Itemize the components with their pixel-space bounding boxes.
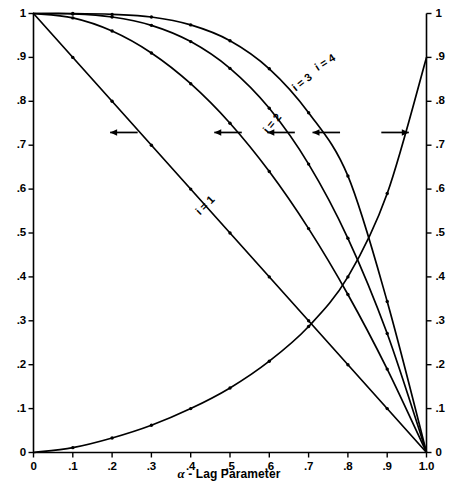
data-point-marker (386, 407, 389, 410)
x-axis-title-text: - Lag Parameter (185, 467, 281, 481)
data-point-marker (189, 407, 192, 410)
data-point-marker (71, 16, 74, 19)
data-point-marker (189, 187, 192, 190)
reference-arrow-left (110, 129, 138, 135)
y-axis-right-tick-label: .2 (436, 358, 445, 370)
arrow-head (110, 129, 117, 135)
y-axis-left-tick-label: 1 (2, 7, 26, 19)
data-point-marker (346, 363, 349, 366)
y-axis-right-tick-label: .4 (436, 270, 445, 282)
data-point-marker (268, 359, 271, 362)
data-point-marker (189, 23, 192, 26)
y-axis-right-tick-label: .3 (436, 314, 445, 326)
data-point-marker (307, 325, 310, 328)
y-axis-left-tick-label: .5 (2, 226, 26, 238)
data-point-marker (150, 424, 153, 427)
data-point-marker (110, 100, 113, 103)
data-point-marker (150, 24, 153, 27)
data-point-marker (71, 12, 74, 15)
curve-mean-lag (34, 57, 427, 452)
y-axis-left-tick-label: 0 (2, 446, 26, 458)
y-axis-right-tick-label: .7 (436, 138, 445, 150)
y-axis-left-tick-label: .2 (2, 358, 26, 370)
y-axis-left-tick-label: .1 (2, 402, 26, 414)
data-point-marker (150, 144, 153, 147)
data-point-marker (110, 13, 113, 16)
data-point-marker (386, 300, 389, 303)
y-axis-right-tick-label: 0 (436, 446, 442, 458)
y-axis-left-tick-label: .6 (2, 182, 26, 194)
arrow-head (214, 129, 221, 135)
data-point-marker (307, 111, 310, 114)
data-point-marker (346, 275, 349, 278)
y-axis-left-tick-label: .8 (2, 94, 26, 106)
data-point-marker (307, 227, 310, 230)
y-axis-left-tick-label: .3 (2, 314, 26, 326)
data-point-marker (346, 293, 349, 296)
y-axis-right-tick-label: 1 (436, 7, 442, 19)
data-point-marker (110, 29, 113, 32)
data-point-marker (386, 332, 389, 335)
data-point-marker (346, 237, 349, 240)
data-point-marker (268, 67, 271, 70)
y-axis-left-tick-label: .7 (2, 138, 26, 150)
data-point-marker (71, 446, 74, 449)
arrow-head (313, 129, 320, 135)
data-point-marker (228, 67, 231, 70)
chart-figure: 0.1.2.3.4.5.6.7.8.91 0.1.2.3.4.5.6.7.8.9… (0, 0, 458, 491)
y-axis-right-tick-label: .8 (436, 94, 445, 106)
data-point-marker (346, 174, 349, 177)
data-point-marker (268, 170, 271, 173)
data-point-marker (71, 56, 74, 59)
data-point-marker (150, 15, 153, 18)
data-point-marker (307, 162, 310, 165)
data-point-marker (386, 192, 389, 195)
data-point-marker (307, 319, 310, 322)
alpha-symbol: α (178, 466, 185, 481)
data-point-marker (386, 367, 389, 370)
chart-plot-area (0, 0, 458, 491)
data-point-marker (189, 82, 192, 85)
data-point-marker (228, 386, 231, 389)
reference-arrow-left (313, 129, 341, 135)
y-axis-right-tick-label: .9 (436, 50, 445, 62)
x-axis-title: α - Lag Parameter (0, 466, 458, 482)
reference-arrow-left (214, 129, 242, 135)
data-point-marker (268, 107, 271, 110)
axis-reference-arrows (110, 129, 409, 135)
data-point-marker (268, 275, 271, 278)
y-axis-left-tick-label: .9 (2, 50, 26, 62)
data-point-marker (150, 51, 153, 54)
data-point-marker (228, 231, 231, 234)
y-axis-left-tick-label: .4 (2, 270, 26, 282)
y-axis-right-tick-label: .1 (436, 402, 445, 414)
data-point-markers (71, 12, 389, 450)
data-point-marker (228, 39, 231, 42)
y-axis-right-tick-label: .6 (436, 182, 445, 194)
data-point-marker (228, 122, 231, 125)
data-point-marker (110, 436, 113, 439)
data-point-marker (189, 40, 192, 43)
y-axis-right-tick-label: .5 (436, 226, 445, 238)
